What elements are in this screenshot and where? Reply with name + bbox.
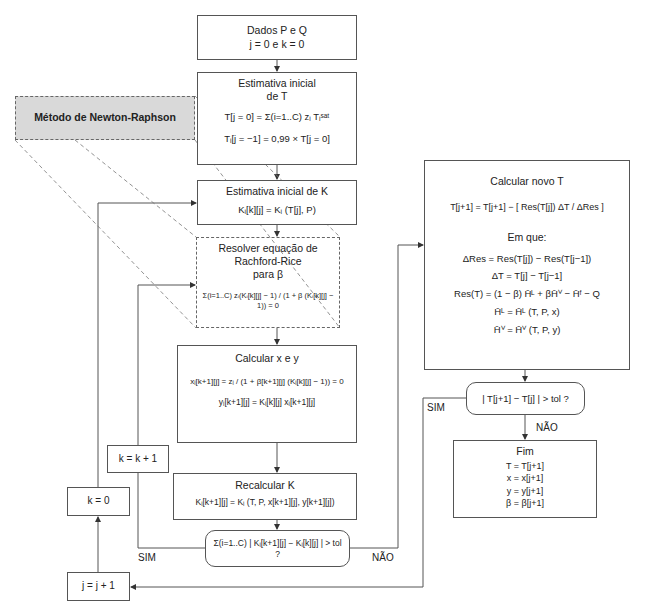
- end-box: Fim T = T[j+1] x = x[j+1] y = y[j+1] β =…: [453, 440, 597, 518]
- recalculate-k-equation: Kᵢ[k+1][j] = Kᵢ (T, P, x[k+1][j], y[k+1]…: [174, 497, 356, 508]
- end-title: Fim: [454, 445, 596, 458]
- rachford-rice-title-1: Resolver equação de: [197, 242, 339, 255]
- t-decision-yes-label: SIM: [427, 402, 445, 413]
- j-increment-box: j = j + 1: [67, 572, 130, 601]
- k-increment-box: k = k + 1: [107, 445, 169, 473]
- rachford-rice-title-2: Rachford-Rice: [197, 255, 339, 268]
- recalculate-k-box: Recalcular K Kᵢ[k+1][j] = Kᵢ (T, P, x[k+…: [173, 473, 357, 520]
- initial-temperature-title-2: de T: [198, 90, 356, 103]
- new-temperature-title: Calcular novo T: [425, 175, 629, 188]
- residual-equation: Res(T) = (1 − β) H̄ᴸ + βH̄ⱽ − H̄ᶠ − Q: [425, 288, 629, 300]
- newton-raphson-method-label: Método de Newton-Raphson: [15, 96, 195, 140]
- delta-t-equation: ΔT = T[j] − T[j−1]: [425, 270, 629, 282]
- rachford-rice-title-3: para β: [197, 268, 339, 281]
- calculate-x-equation: xᵢ[k+1][j] = zᵢ / (1 + β[k+1][j] (Kᵢ[k][…: [178, 377, 356, 387]
- calculate-y-equation: yᵢ[k+1][j] = Kᵢ[k][j] xᵢ[k+1][j]: [178, 397, 356, 408]
- initial-k-box: Estimativa inicial de K Kᵢ[k][j] = Kᵢ (T…: [197, 180, 357, 225]
- liquid-enthalpy-equation: H̄ᴸ = H̄ᴸ (T, P, x): [425, 306, 629, 318]
- new-temperature-box: Calcular novo T T[j+1] = T[j+1] − [ Res(…: [424, 160, 630, 370]
- start-given-label: Dados P e Q: [247, 24, 307, 37]
- rachford-rice-box: Resolver equação de Rachford-Rice para β…: [196, 237, 340, 328]
- k-reset-box: k = 0: [67, 487, 130, 516]
- end-t-result: T = T[j+1]: [454, 461, 596, 472]
- initial-k-title: Estimativa inicial de K: [198, 185, 356, 198]
- initial-temperature-prev-equation: Tᵢ[j = −1] = 0,99 × T[j = 0]: [198, 133, 356, 145]
- rachford-rice-equation: Σ(i=1..C) zᵢ(Kᵢ[k][j] − 1) / (1 + β (Kᵢ[…: [197, 291, 339, 310]
- em-que-label: Em que:: [425, 231, 629, 244]
- vapor-enthalpy-equation: H̄ⱽ = H̄ⱽ (T, P, y): [425, 324, 629, 336]
- start-init-label: j = 0 e k = 0: [250, 38, 305, 51]
- t-convergence-decision: | T[j+1] − T[j] | > tol ?: [466, 382, 585, 415]
- start-box: Dados P e Q j = 0 e k = 0: [197, 15, 357, 60]
- calculate-xy-title: Calcular x e y: [178, 352, 356, 365]
- new-temperature-update-equation: T[j+1] = T[j+1] − [ Res(T[j]) ΔT / ΔRes …: [425, 202, 629, 213]
- recalculate-k-title: Recalcular K: [174, 479, 356, 492]
- end-y-result: y = y[j+1]: [454, 486, 596, 497]
- t-decision-no-label: NÃO: [536, 422, 558, 433]
- calculate-xy-box: Calcular x e y xᵢ[k+1][j] = zᵢ / (1 + β[…: [177, 345, 357, 443]
- k-convergence-decision: Σ(i=1..C) | Kᵢ[k+1][j] − Kᵢ[k][j] | > to…: [205, 530, 350, 567]
- initial-temperature-sum-equation: T[j = 0] = Σ(i=1..C) zᵢ Tᵢˢᵃᵗ: [198, 111, 356, 123]
- k-decision-no-label: NÃO: [372, 552, 394, 563]
- initial-temperature-title: Estimativa inicial: [198, 77, 356, 90]
- initial-k-equation: Kᵢ[k][j] = Kᵢ (T[j], P): [198, 204, 356, 216]
- delta-res-equation: ΔRes = Res(T[j]) − Res(T[j−1]): [425, 253, 629, 265]
- k-decision-yes-label: SIM: [138, 552, 156, 563]
- initial-temperature-box: Estimativa inicial de T T[j = 0] = Σ(i=1…: [197, 72, 357, 165]
- end-x-result: x = x[j+1]: [454, 473, 596, 484]
- end-beta-result: β = β[j+1]: [454, 498, 596, 509]
